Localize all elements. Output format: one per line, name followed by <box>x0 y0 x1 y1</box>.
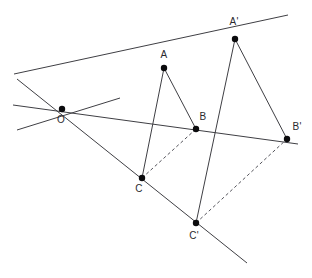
ray-through-O-A-Aprime <box>14 15 288 74</box>
vertex-label-A: A <box>161 49 168 60</box>
vertex-labels-group: O A B C A' B' C' <box>57 16 302 241</box>
vertex-label-O: O <box>57 114 65 125</box>
vertex-point-B <box>193 126 199 132</box>
ray-lower-left-through-O <box>17 98 120 130</box>
vertex-label-Bprime: B' <box>292 121 301 132</box>
vertex-point-Bprime <box>284 136 290 142</box>
vertex-point-Aprime <box>232 36 238 42</box>
geometry-diagram-svg: O A B C A' B' C' <box>0 0 312 278</box>
triangle-edge-Cprime-Bprime <box>196 139 287 223</box>
projection-rays-group <box>13 15 298 263</box>
vertex-point-A <box>161 65 167 71</box>
vertex-label-Aprime: A' <box>229 16 238 27</box>
triangle-edge-Aprime-Bprime <box>235 39 287 139</box>
vertex-label-C: C <box>135 183 143 194</box>
vertex-point-C <box>139 175 145 181</box>
triangle-edge-A-B <box>164 68 196 129</box>
ray-through-O-C-Cprime <box>17 79 247 263</box>
geometry-figure-canvas: O A B C A' B' C' <box>0 0 312 278</box>
vertex-point-O <box>59 106 65 112</box>
triangle-ABC-group <box>142 68 196 178</box>
vertex-label-B: B <box>200 111 207 122</box>
vertex-point-Cprime <box>193 220 199 226</box>
vertex-label-Cprime: C' <box>189 230 199 241</box>
vertex-dots-group <box>59 36 290 226</box>
triangle-ApBpCp-group <box>196 39 287 223</box>
